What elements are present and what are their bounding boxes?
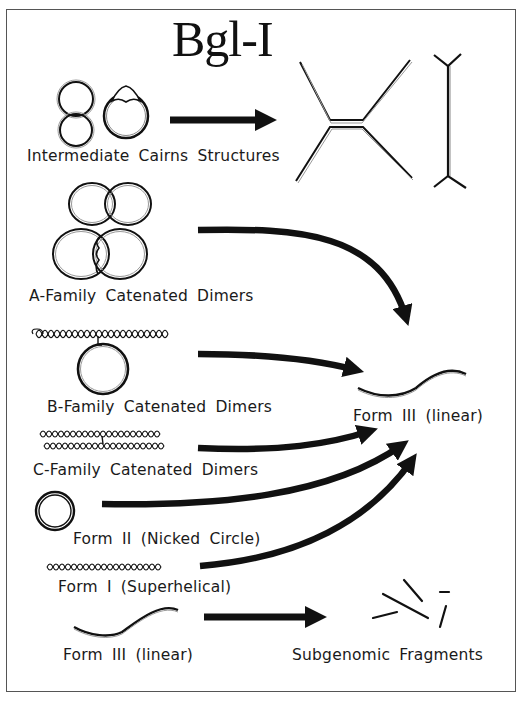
theta-structure-icon <box>434 54 466 188</box>
label-form-i: Form I (Superhelical) <box>58 578 231 596</box>
label-form-iii-target: Form III (linear) <box>353 407 483 425</box>
branched-structure-icon <box>296 60 413 183</box>
diagram-canvas <box>0 0 524 703</box>
cairns-structures-icon <box>57 80 148 148</box>
subgenomic-fragments-icon <box>373 580 449 627</box>
b-family-dimers-icon <box>32 329 168 394</box>
form-iii-source-icon <box>74 608 178 637</box>
label-b-family: B-Family Catenated Dimers <box>47 398 272 416</box>
label-subgenomic: Subgenomic Fragments <box>292 646 483 664</box>
label-form-iii-source: Form III (linear) <box>63 646 193 664</box>
label-a-family: A-Family Catenated Dimers <box>29 287 254 305</box>
form-i-superhelical-icon <box>47 564 161 570</box>
form-ii-nicked-circle-icon <box>36 492 74 530</box>
label-c-family: C-Family Catenated Dimers <box>33 461 258 479</box>
a-family-dimers-icon <box>53 183 151 279</box>
c-family-dimers-icon <box>40 431 164 449</box>
form-iii-target-icon <box>358 371 466 398</box>
arrow-c-family <box>198 431 370 449</box>
label-form-ii: Form II (Nicked Circle) <box>73 530 260 548</box>
page-title: Bgl-I <box>172 14 273 64</box>
label-cairns: Intermediate Cairns Structures <box>27 147 280 165</box>
arrow-b-family <box>198 354 356 370</box>
